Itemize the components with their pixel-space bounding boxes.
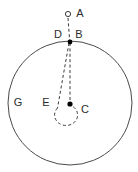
point-marker-a <box>65 11 70 16</box>
dashed-line-b-to-e <box>58 43 70 108</box>
label-g: G <box>14 96 23 108</box>
dashed-loop-arc <box>55 106 78 125</box>
dashed-line-a-to-b <box>68 18 70 40</box>
figure-canvas: A D B E C G <box>0 0 138 172</box>
label-e: E <box>42 96 49 108</box>
point-marker-b <box>68 40 73 45</box>
point-marker-c <box>67 101 72 106</box>
label-d: D <box>54 28 62 40</box>
label-b: B <box>75 28 82 40</box>
label-c: C <box>81 103 89 115</box>
label-a: A <box>76 7 84 19</box>
circle-diagram-svg: A D B E C G <box>0 0 138 172</box>
